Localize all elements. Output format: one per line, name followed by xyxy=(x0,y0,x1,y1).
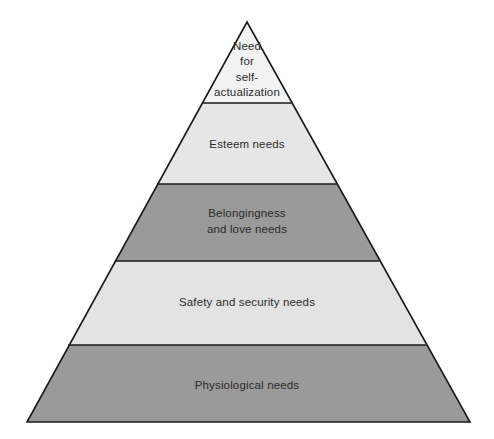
pyramid-tier-label-line: Esteem needs xyxy=(209,138,284,150)
pyramid-tier-label-esteem: Esteem needs xyxy=(209,138,284,150)
pyramid-tier-label-line: for xyxy=(240,55,254,67)
pyramid-tier-label-line: and love needs xyxy=(207,223,287,235)
pyramid-diagram-root: Needforself-actualizationEsteem needsBel… xyxy=(0,0,494,439)
pyramid-tier-label-line: Physiological needs xyxy=(195,379,300,391)
pyramid-tier-label-line: Safety and security needs xyxy=(179,296,315,308)
pyramid-tier-label-safety-and-security: Safety and security needs xyxy=(179,296,315,308)
pyramid-tier-label-line: Need xyxy=(233,40,261,52)
pyramid-tier-label-line: Belongingness xyxy=(208,207,285,219)
pyramid-tier-label-physiological: Physiological needs xyxy=(195,379,300,391)
maslow-pyramid-svg: Needforself-actualizationEsteem needsBel… xyxy=(0,0,494,439)
pyramid-tier-label-line: actualization xyxy=(214,86,280,98)
pyramid-tier-label-line: self- xyxy=(236,71,258,83)
